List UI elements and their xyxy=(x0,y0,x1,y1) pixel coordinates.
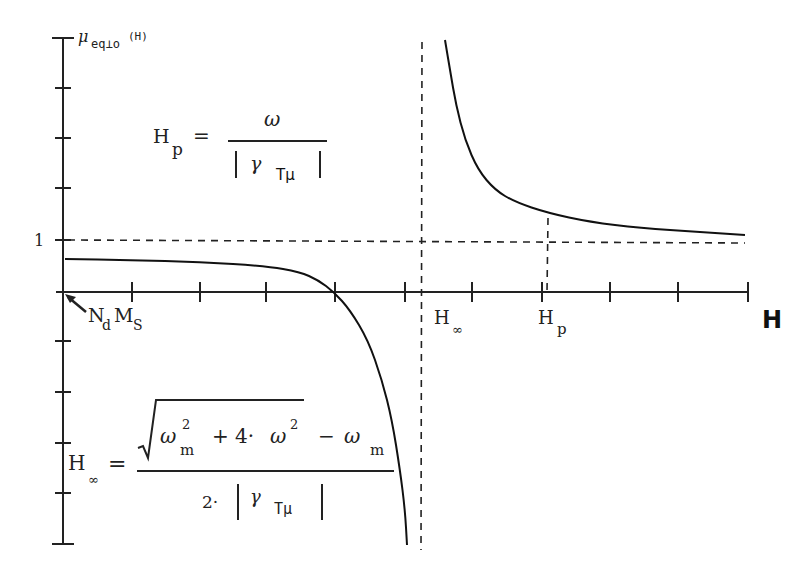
svg-text:=: = xyxy=(108,451,126,476)
hp-guide-line xyxy=(547,218,548,292)
y-axis-label: μ xyxy=(78,27,88,46)
svg-text:ω: ω xyxy=(160,424,176,448)
curve-above-h-inf xyxy=(445,40,745,235)
formula-h-inf: H ∞ = ω m 2 + 4· ω 2 − ω m 2· γ Tμ xyxy=(68,400,394,520)
svg-text:ω: ω xyxy=(264,107,280,131)
svg-text:∞: ∞ xyxy=(88,472,99,487)
svg-text:H: H xyxy=(538,307,554,328)
svg-text:m: m xyxy=(370,441,384,459)
formula-hp: H p = ω γ Tμ xyxy=(153,107,327,184)
svg-text:2: 2 xyxy=(290,417,298,432)
svg-text:Tμ: Tμ xyxy=(275,166,295,184)
svg-text:∞: ∞ xyxy=(452,322,463,337)
x-axis-label: H xyxy=(762,306,782,334)
svg-text:d: d xyxy=(102,317,111,333)
svg-text:H: H xyxy=(68,451,85,475)
svg-text:γ: γ xyxy=(250,486,261,507)
h-inf-label: H ∞ xyxy=(434,307,463,337)
nd-ms-annotation: N d M S xyxy=(65,294,143,333)
svg-text:+ 4·: + 4· xyxy=(212,424,254,448)
h-p-label: H p xyxy=(538,307,567,338)
svg-text:S: S xyxy=(133,317,143,333)
svg-text:ω: ω xyxy=(270,424,286,448)
y-axis-label-arg: (H) xyxy=(128,30,148,43)
y-axis-label-sub: eq⊥o xyxy=(91,37,120,51)
svg-text:2: 2 xyxy=(182,417,190,432)
svg-text:Tμ: Tμ xyxy=(274,500,292,518)
svg-text:ω: ω xyxy=(344,424,360,448)
y-tick-label-one: 1 xyxy=(34,231,44,250)
svg-text:M: M xyxy=(114,304,133,326)
svg-text:p: p xyxy=(557,320,567,338)
svg-text:−: − xyxy=(318,424,335,448)
svg-text:m: m xyxy=(180,441,194,459)
vertical-asymptote-h-inf xyxy=(421,42,422,550)
svg-text:H: H xyxy=(153,125,170,147)
svg-text:2·: 2· xyxy=(202,492,218,512)
horizontal-asymptote-one xyxy=(68,240,745,243)
svg-text:H: H xyxy=(434,307,450,328)
svg-text:=: = xyxy=(193,124,210,148)
svg-text:γ: γ xyxy=(250,152,262,174)
curve-below-h-inf xyxy=(65,259,407,545)
permeability-chart: μ eq⊥o (H) 1 H N d M S H ∞ H p H p = ω γ… xyxy=(0,0,799,577)
svg-text:p: p xyxy=(172,139,183,159)
